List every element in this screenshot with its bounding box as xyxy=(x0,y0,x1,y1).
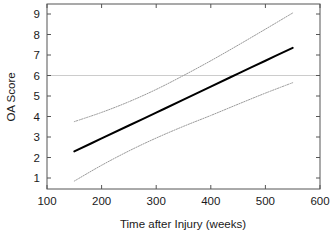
oa-score-vs-time-chart: 123456789 100200300400500600 Time after … xyxy=(0,0,335,235)
y-tick-label: 2 xyxy=(34,152,40,164)
x-tick-label: 600 xyxy=(310,195,329,207)
y-tick-label: 4 xyxy=(34,111,41,123)
y-tick-label: 9 xyxy=(34,8,40,20)
y-axis-title: OA Score xyxy=(5,72,17,121)
y-tick-label: 3 xyxy=(34,131,40,143)
x-tick-label: 200 xyxy=(92,195,111,207)
x-tick-label: 100 xyxy=(37,195,56,207)
x-tick-label: 300 xyxy=(147,195,166,207)
x-tick-label: 400 xyxy=(201,195,220,207)
y-tick-label: 1 xyxy=(34,172,40,184)
y-tick-label: 7 xyxy=(34,49,40,61)
chart-figure: 123456789 100200300400500600 Time after … xyxy=(0,0,335,235)
y-axis-tick-labels: 123456789 xyxy=(34,8,41,184)
y-tick-label: 8 xyxy=(34,29,40,41)
x-axis-title: Time after Injury (weeks) xyxy=(120,218,246,230)
y-tick-label: 6 xyxy=(34,70,40,82)
y-tick-label: 5 xyxy=(34,90,40,102)
x-tick-label: 500 xyxy=(256,195,275,207)
